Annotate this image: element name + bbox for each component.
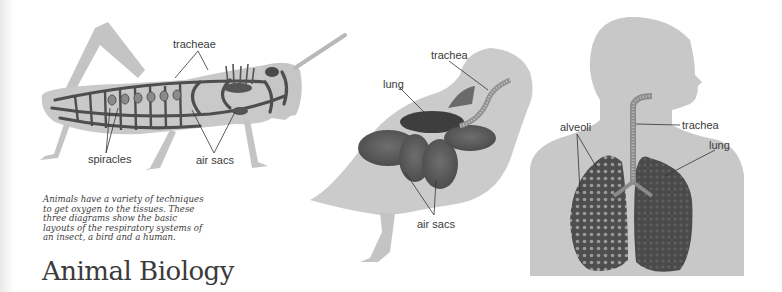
label-bird-trachea: trachea	[431, 50, 468, 61]
label-bird-air-sacs: air sacs	[417, 219, 455, 230]
label-alveoli: alveoli	[560, 122, 591, 133]
respiratory-illustrations	[0, 0, 782, 292]
page-title: Animal Biology	[42, 258, 234, 284]
caption-line: an insect, a bird and a human.	[43, 233, 243, 243]
label-human-lung: lung	[709, 140, 730, 151]
caption: Animals have a variety of techniques to …	[43, 195, 243, 243]
label-spiracles: spiracles	[88, 154, 131, 165]
label-human-trachea: trachea	[682, 120, 719, 131]
label-insect-air-sacs: air sacs	[196, 155, 234, 166]
label-tracheae: tracheae	[173, 39, 216, 50]
label-bird-lung: lung	[383, 79, 404, 90]
